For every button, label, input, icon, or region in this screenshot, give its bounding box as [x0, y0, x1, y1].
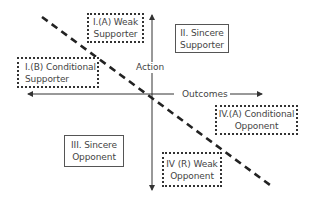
- quadrant-ia-line2: Supporter: [94, 28, 138, 40]
- quadrant-iii-line1: III. Sincere: [71, 139, 117, 151]
- quadrant-ii-line2: Supporter: [180, 39, 224, 51]
- quadrant-iva-conditional-opponent: IV.(A) Conditional Opponent: [215, 105, 298, 135]
- outcomes-axis-label: Outcomes: [180, 89, 230, 100]
- quadrant-ivr-line2: Opponent: [170, 170, 214, 182]
- action-axis-label: Action: [136, 62, 164, 73]
- quadrant-iva-line1: IV.(A) Conditional: [219, 108, 295, 120]
- quadrant-ia-weak-supporter: I.(A) Weak Supporter: [87, 13, 144, 43]
- quadrant-iii-sincere-opponent: III. Sincere Opponent: [64, 135, 124, 167]
- quadrant-iii-line2: Opponent: [72, 151, 116, 163]
- quadrant-ib-line1: I.(B) Conditional: [25, 61, 96, 73]
- quadrant-ii-sincere-supporter: II. Sincere Supporter: [175, 24, 229, 53]
- quadrant-ib-conditional-supporter: I.(B) Conditional Supporter: [17, 57, 99, 88]
- quadrant-ib-line2: Supporter: [25, 73, 69, 85]
- quadrant-ia-line1: I.(A) Weak: [93, 16, 138, 28]
- quadrant-ii-line1: II. Sincere: [180, 27, 223, 39]
- quadrant-diagram: Action Outcomes I.(A) Weak Supporter II.…: [0, 0, 315, 201]
- quadrant-ivr-weak-opponent: IV (R) Weak Opponent: [162, 152, 222, 187]
- diagram-lines: [0, 0, 315, 201]
- quadrant-iva-line2: Opponent: [235, 120, 279, 132]
- quadrant-ivr-line1: IV (R) Weak: [166, 158, 217, 170]
